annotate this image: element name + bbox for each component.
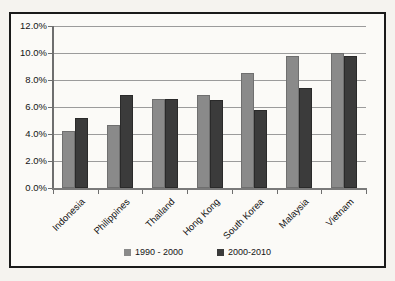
bar-series-2000-2010 <box>299 88 312 188</box>
x-axis-tick <box>98 190 99 194</box>
chart-screenshot: 1990 - 20002000-2010 12.0%10.0%8.0%6.0%4… <box>0 0 395 281</box>
x-axis-category-label: South Korea <box>221 196 266 241</box>
y-axis-tick-label: 12.0% <box>11 21 47 31</box>
gridline <box>53 80 366 81</box>
x-axis-category-label: Malaysia <box>276 196 310 230</box>
legend-marker-icon <box>217 249 224 256</box>
gridline <box>53 53 366 54</box>
x-axis-tick <box>53 190 54 194</box>
bar-series-2000-2010 <box>254 110 267 188</box>
y-axis-line <box>52 26 54 190</box>
x-axis-category-label: Thailand <box>143 196 177 230</box>
x-axis-category-label: Philippines <box>92 196 132 236</box>
bar-series-1990-2000 <box>331 53 344 188</box>
x-axis-tick <box>366 190 367 194</box>
bar-series-1990-2000 <box>107 125 120 188</box>
y-axis-tick-label: 2.0% <box>11 156 47 166</box>
y-axis-tick-label: 10.0% <box>11 48 47 58</box>
y-axis-tick-label: 8.0% <box>11 75 47 85</box>
y-axis-tick-label: 6.0% <box>11 102 47 112</box>
x-axis-tick <box>187 190 188 194</box>
x-axis-category-label: Hong Kong <box>180 196 221 237</box>
x-axis-tick <box>232 190 233 194</box>
bar-series-1990-2000 <box>152 99 165 188</box>
bar-series-2000-2010 <box>210 100 223 188</box>
bar-series-2000-2010 <box>165 99 178 188</box>
gridline <box>53 26 366 27</box>
y-axis-tick-label: 0.0% <box>11 183 47 193</box>
x-axis-tick <box>142 190 143 194</box>
bar-series-1990-2000 <box>286 56 299 188</box>
legend-marker-icon <box>124 249 131 256</box>
x-axis-category-label: Indonesia <box>50 196 87 233</box>
y-axis-tick-label: 4.0% <box>11 129 47 139</box>
x-axis-line <box>52 188 367 190</box>
bar-series-1990-2000 <box>62 131 75 188</box>
bar-series-1990-2000 <box>241 73 254 188</box>
legend: 1990 - 20002000-2010 <box>11 247 384 257</box>
bar-series-2000-2010 <box>120 95 133 188</box>
legend-item-2000-2010: 2000-2010 <box>217 247 271 257</box>
bar-series-1990-2000 <box>197 95 210 188</box>
bar-series-2000-2010 <box>75 118 88 188</box>
legend-item-1990-2000: 1990 - 2000 <box>124 247 183 257</box>
legend-label: 1990 - 2000 <box>135 247 183 257</box>
chart-frame: 1990 - 20002000-2010 12.0%10.0%8.0%6.0%4… <box>9 12 386 268</box>
x-axis-tick <box>321 190 322 194</box>
bar-series-2000-2010 <box>344 56 357 188</box>
x-axis-tick <box>277 190 278 194</box>
legend-label: 2000-2010 <box>228 247 271 257</box>
x-axis-category-label: Vietnam <box>323 196 355 228</box>
